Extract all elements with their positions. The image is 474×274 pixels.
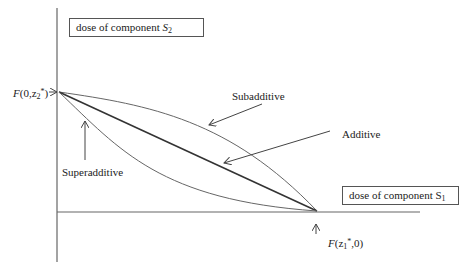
y-axis-label-subscript: 2 [168, 26, 172, 35]
y-axis-label-box: dose of component S2 [69, 18, 204, 37]
x-axis-label-text: dose of component S [349, 189, 442, 201]
superadditive-label: Superadditive [62, 166, 123, 178]
x-axis-label-subscript: 1 [442, 194, 446, 203]
subadditive-arrow-icon [209, 104, 262, 125]
additive-arrow-icon [224, 131, 330, 163]
y-intercept-label: F(0,z2*) [13, 87, 48, 99]
isobologram-diagram [0, 0, 474, 274]
additive-line [59, 92, 317, 211]
x-axis-label-box: dose of component S1 [342, 186, 459, 205]
subadditive-label: Subadditive [232, 90, 285, 102]
additive-label: Additive [342, 128, 381, 140]
x-intercept-label: F(z1*,0) [328, 237, 363, 249]
y-axis-label-text: dose of component [76, 21, 162, 33]
